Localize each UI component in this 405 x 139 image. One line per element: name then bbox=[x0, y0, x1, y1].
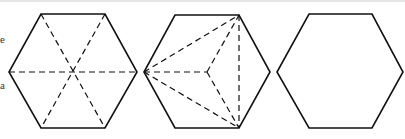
hexagon-outline bbox=[277, 14, 403, 128]
hexagon-diagram bbox=[0, 0, 405, 139]
hexagon-plain bbox=[277, 14, 403, 128]
dashed-diagonal bbox=[144, 72, 239, 128]
dashed-diagonal bbox=[144, 15, 239, 72]
hexagon-vertex-fan bbox=[144, 15, 270, 128]
dashed-diagonal bbox=[207, 15, 239, 72]
hexagon-center-fan bbox=[9, 14, 137, 128]
dashed-diagonal bbox=[207, 72, 239, 128]
